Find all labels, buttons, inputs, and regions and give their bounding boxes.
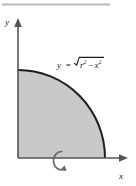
x-axis-arrowhead <box>119 154 128 162</box>
shaded-quarter-disk <box>18 70 105 158</box>
equation-minus: − <box>88 60 93 70</box>
svg-text:y =: y = <box>56 60 71 70</box>
equation-exponent-two: 2 <box>99 59 102 65</box>
equation-exponent-one: 2 <box>84 59 87 65</box>
equation-equals: = <box>66 60 71 70</box>
x-axis-label: x <box>118 171 123 181</box>
math-figure: y x y = r2−x2 <box>0 0 136 186</box>
figure-canvas: y x y = r2−x2 <box>0 0 136 186</box>
y-axis-arrowhead <box>14 18 22 27</box>
equation-lhs: y <box>56 60 61 70</box>
curve-equation-label: y = r2−x2 <box>56 57 104 70</box>
y-axis-label: y <box>4 17 9 27</box>
svg-text:r2−x2: r2−x2 <box>80 59 102 70</box>
